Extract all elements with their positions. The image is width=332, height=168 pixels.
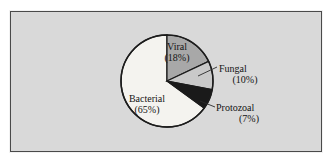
pie-label-viral-value: (18%) [157, 52, 197, 63]
pie-label-bacterial: Bacterial (65%) [117, 93, 177, 115]
pie-chart-plot [0, 0, 332, 168]
pie-label-protozoal-value: (7%) [216, 113, 282, 124]
pie-label-fungal-value: (10%) [219, 74, 271, 85]
pie-chart-figure: Viral (18%) Fungal (10%) Protozoal (7%) … [0, 0, 332, 168]
pie-label-bacterial-value: (65%) [117, 104, 177, 115]
pie-label-viral-name: Viral [167, 41, 187, 52]
pie-label-protozoal-name: Protozoal [216, 102, 254, 113]
pie-label-fungal-name: Fungal [219, 63, 247, 74]
pie-label-bacterial-name: Bacterial [129, 93, 165, 104]
pie-label-fungal: Fungal (10%) [219, 63, 271, 85]
pie-label-viral: Viral (18%) [157, 41, 197, 63]
pie-label-protozoal: Protozoal (7%) [216, 102, 282, 124]
